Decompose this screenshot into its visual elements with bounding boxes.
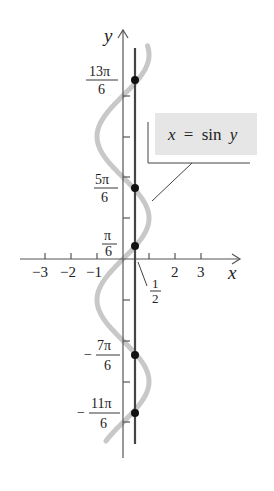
svg-text:13π: 13π bbox=[89, 64, 110, 79]
y-axis-label: y bbox=[102, 25, 113, 46]
point-pi-6 bbox=[131, 242, 139, 250]
svg-text:−: − bbox=[77, 405, 85, 420]
point-5pi-6 bbox=[131, 184, 139, 192]
graph-canvas: y x −3 −2 −1 2 3 1 2 13π 6 5π 6 π 6 − 7π… bbox=[0, 0, 274, 491]
point-neg-7pi-6 bbox=[131, 351, 139, 359]
half-pointer-line bbox=[138, 262, 147, 286]
svg-text:5π: 5π bbox=[95, 172, 109, 187]
svg-text:−: − bbox=[84, 347, 92, 362]
equation-callout: x = sin y bbox=[148, 113, 257, 201]
y-label-pi-6: π 6 bbox=[102, 228, 117, 259]
svg-text:11π: 11π bbox=[91, 396, 112, 411]
y-label-13pi-6: 13π 6 bbox=[86, 64, 118, 97]
x-tick-label-2: 2 bbox=[171, 264, 179, 280]
svg-text:6: 6 bbox=[101, 190, 108, 205]
x-tick-label-neg2: −2 bbox=[60, 264, 76, 280]
svg-text:6: 6 bbox=[98, 82, 105, 97]
y-label-5pi-6: 5π 6 bbox=[94, 172, 118, 205]
callout-leader-line bbox=[152, 163, 192, 201]
point-13pi-6 bbox=[131, 76, 139, 84]
svg-text:6: 6 bbox=[100, 416, 107, 431]
half-label-numerator: 1 bbox=[152, 276, 159, 291]
x-tick-label-neg3: −3 bbox=[32, 264, 48, 280]
svg-text:π: π bbox=[104, 228, 111, 243]
point-neg-11pi-6 bbox=[131, 409, 139, 417]
x-tick-label-3: 3 bbox=[197, 264, 205, 280]
half-label-denominator: 2 bbox=[152, 291, 159, 306]
svg-text:6: 6 bbox=[105, 244, 112, 259]
svg-text:7π: 7π bbox=[97, 338, 111, 353]
x-axis-label: x bbox=[227, 262, 237, 283]
x-tick-label-neg1: −1 bbox=[86, 264, 102, 280]
y-label-neg-7pi-6: − 7π 6 bbox=[84, 338, 120, 373]
y-label-neg-11pi-6: − 11π 6 bbox=[77, 396, 120, 431]
svg-text:6: 6 bbox=[104, 358, 111, 373]
